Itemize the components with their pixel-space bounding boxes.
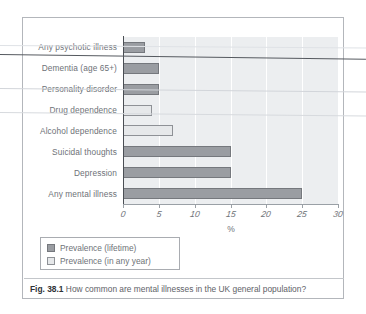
x-tick [159,204,160,208]
x-tick [123,204,124,208]
bar [123,167,231,178]
legend-swatch-icon [47,257,55,265]
x-tick-label: 5 [156,209,162,219]
gridline [302,37,303,204]
y-axis-line [123,36,124,204]
category-label: Depression [74,167,117,179]
gridline [266,37,267,204]
bar [123,188,302,199]
x-axis-title: % [227,224,235,234]
legend-swatch-icon [47,244,55,252]
category-axis-labels: Any psychotic illnessDementia (age 65+)P… [23,37,121,204]
gridline [159,37,160,204]
gridline [195,37,196,204]
x-tick [302,204,303,208]
figure-container: Any psychotic illnessDementia (age 65+)P… [22,17,344,299]
legend-label: Prevalence (in any year) [60,256,151,266]
gridline [231,37,232,204]
figure-caption: Fig. 38.1 How common are mental illnesse… [30,283,340,295]
plot-area [123,37,338,204]
bar [123,146,231,157]
category-label: Drug dependence [50,104,117,116]
bar [123,63,159,74]
chart-legend: Prevalence (lifetime) Prevalence (in any… [40,237,180,270]
figure-caption-text: How common are mental illnesses in the U… [66,284,306,294]
category-label: Personality disorder [42,83,117,95]
x-tick [231,204,232,208]
figure-number: Fig. 38.1 [30,284,64,294]
x-tick [266,204,267,208]
bar [123,125,173,136]
gridline [338,37,339,204]
category-label: Suicidal thoughts [52,146,117,158]
category-label: Dementia (age 65+) [42,62,117,74]
legend-label: Prevalence (lifetime) [60,243,136,253]
category-label: Any psychotic illness [38,41,117,53]
x-tick-label: 30 [332,209,343,219]
category-label: Alcohol dependence [40,125,117,137]
x-tick [338,204,339,208]
bar [123,42,145,53]
bar [123,105,152,116]
category-label: Any mental illness [48,188,117,200]
x-tick-label: 15 [225,209,236,219]
legend-item-lifetime: Prevalence (lifetime) [47,241,136,254]
x-tick-label: 25 [297,209,308,219]
x-tick [195,204,196,208]
caption-divider [24,278,344,279]
x-tick-label: 0 [120,209,126,219]
x-tick-label: 20 [261,209,272,219]
legend-item-any-year: Prevalence (in any year) [47,254,151,267]
bar [123,84,159,95]
bar-chart: Any psychotic illnessDementia (age 65+)P… [23,18,345,300]
x-tick-label: 10 [189,209,200,219]
